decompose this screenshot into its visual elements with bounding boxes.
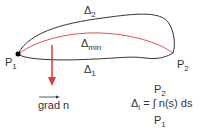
point-p1-label: P1: [5, 57, 17, 71]
path-delta-min-label: Δmin: [81, 38, 101, 52]
path-delta1: [18, 53, 173, 60]
path-delta1-label: Δ1: [84, 64, 96, 78]
path-integral-formula: P2 Δi = ∫ n(s) ds P1: [131, 83, 200, 129]
formula-upper-limit: P2: [154, 83, 166, 98]
gradient-label: grad n: [38, 99, 69, 111]
point-p1-dot: [16, 52, 21, 57]
gradient-arrowhead-icon: [48, 77, 56, 86]
formula-lower-limit: P1: [154, 114, 166, 129]
formula-body: Δi = ∫ n(s) ds: [131, 97, 192, 112]
point-p2-label: P2: [177, 59, 189, 73]
path-delta2-label: Δ2: [84, 5, 96, 19]
